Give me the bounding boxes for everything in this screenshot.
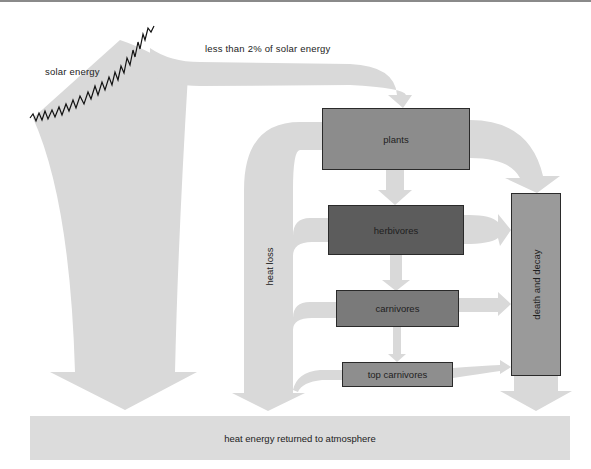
plants-label: plants bbox=[383, 134, 408, 145]
heat-returned-label: heat energy returned to atmosphere bbox=[224, 433, 376, 444]
carnivores-to-top-arrow bbox=[388, 327, 406, 362]
carnivores-label: carnivores bbox=[376, 303, 420, 314]
carnivores-box: carnivores bbox=[336, 290, 459, 327]
carnivores-heat-branch bbox=[293, 302, 338, 330]
heat-loss-arrow bbox=[232, 122, 322, 411]
herbivores-heat-branch bbox=[293, 218, 330, 256]
plants-to-herbivores-arrow bbox=[378, 170, 412, 205]
carnivores-to-decay-arrow bbox=[459, 292, 511, 316]
solar-to-plants-arrow bbox=[150, 48, 412, 108]
solar-to-atmosphere-arrow bbox=[33, 40, 197, 410]
decay-to-atmosphere-arrow bbox=[500, 376, 572, 411]
herbivores-to-decay-arrow bbox=[464, 214, 511, 246]
heat-loss-label: heat loss bbox=[264, 242, 275, 292]
death-and-decay-box: death and decay bbox=[511, 193, 561, 376]
plants-to-decay-arrow bbox=[470, 120, 560, 193]
atmosphere-bar: heat energy returned to atmosphere bbox=[30, 416, 570, 460]
top-carnivores-heat-branch bbox=[293, 370, 344, 392]
top-carnivores-box: top carnivores bbox=[342, 362, 453, 387]
solar-energy-label: solar energy bbox=[45, 66, 100, 77]
death-and-decay-label: death and decay bbox=[531, 249, 542, 319]
top-carnivores-label: top carnivores bbox=[368, 369, 428, 380]
herbivores-box: herbivores bbox=[328, 205, 464, 255]
plants-box: plants bbox=[322, 108, 470, 170]
less-than-2-percent-label: less than 2% of solar energy bbox=[205, 43, 330, 54]
top-carnivores-to-decay-arrow bbox=[453, 360, 511, 378]
herbivores-label: herbivores bbox=[374, 225, 418, 236]
herbivores-to-carnivores-arrow bbox=[382, 255, 410, 291]
